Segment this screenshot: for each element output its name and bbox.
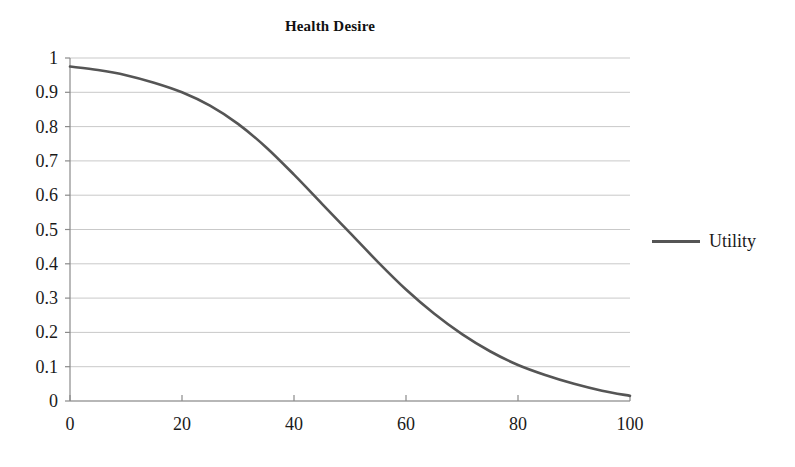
y-tick-label: 0 — [0, 392, 58, 410]
x-tick-label: 80 — [478, 415, 558, 433]
x-tick-label: 60 — [366, 415, 446, 433]
x-tick-label: 20 — [142, 415, 222, 433]
line-swatch-icon — [652, 240, 700, 243]
x-tick-label: 40 — [254, 415, 334, 433]
y-tick-label: 0.1 — [0, 358, 58, 376]
y-tick-label: 0.4 — [0, 255, 58, 273]
y-tick-label: 0.9 — [0, 83, 58, 101]
chart-container: Health Desire 00.10.20.30.40.50.60.70.80… — [0, 0, 795, 467]
y-tick-label: 0.8 — [0, 118, 58, 136]
y-tick-label: 0.2 — [0, 323, 58, 341]
x-tick-label: 100 — [590, 415, 670, 433]
legend-item-label: Utility — [709, 232, 756, 250]
y-tick-label: 0.7 — [0, 152, 58, 170]
y-tick-group — [65, 58, 70, 401]
x-tick-group — [70, 395, 630, 401]
series-line-utility — [70, 67, 630, 396]
y-tick-label: 0.6 — [0, 186, 58, 204]
x-tick-label: 0 — [30, 415, 110, 433]
chart-legend: Utility — [652, 232, 756, 250]
y-tick-label: 1 — [0, 49, 58, 67]
y-tick-label: 0.3 — [0, 289, 58, 307]
gridline-group — [70, 58, 630, 401]
y-tick-label: 0.5 — [0, 221, 58, 239]
